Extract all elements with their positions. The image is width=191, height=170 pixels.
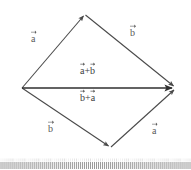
label-text: b+a [80, 92, 95, 103]
label-text: a [152, 125, 156, 136]
tick-strip [0, 158, 191, 170]
label-text: a+b [80, 65, 95, 76]
label-text: b [48, 123, 53, 134]
label-vector-a-lower-right: a [152, 122, 156, 136]
vector-diagram [0, 0, 191, 156]
label-text: b [130, 27, 135, 38]
label-sum-b-plus-a: b+a [80, 89, 95, 103]
label-vector-b-lower-left: b [48, 120, 53, 134]
edge-bottom-to-right [111, 90, 174, 147]
tick-strip-svg [0, 158, 191, 170]
label-vector-a-upper-left: a [31, 30, 35, 44]
label-vector-b-upper-right: b [130, 24, 135, 38]
figure-canvas: a b a+b [0, 0, 191, 170]
label-text: a [31, 33, 35, 44]
edge-origin-to-top [22, 16, 84, 88]
edge-origin-to-bottom [22, 88, 109, 146]
label-sum-a-plus-b: a+b [80, 62, 95, 76]
